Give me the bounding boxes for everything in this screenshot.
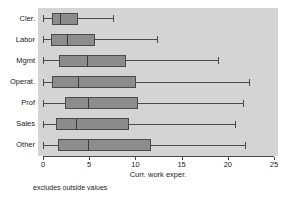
box-rect	[65, 98, 137, 109]
box-rect	[51, 34, 94, 45]
box-rect	[57, 119, 128, 130]
y-tick-label: Other	[0, 141, 35, 149]
y-tick-label: Operat.	[0, 78, 35, 86]
x-tick-label: 25	[270, 160, 278, 169]
box-rect	[60, 55, 126, 66]
y-tick-label: Sales	[0, 120, 35, 128]
boxplot-figure: Cler.LaborMgmtOperat.ProfSalesOther 0510…	[0, 0, 286, 199]
box-plot-group	[43, 98, 244, 109]
box-plot-group	[43, 77, 250, 88]
box-rect	[59, 140, 150, 151]
x-tick-label: 5	[87, 160, 91, 169]
y-tick-label: Mgmt	[0, 57, 35, 65]
box-plot-group	[43, 140, 245, 151]
x-axis-line	[43, 156, 274, 157]
box-rect	[52, 77, 135, 88]
chart-footnote: excludes outside values	[33, 184, 107, 191]
x-axis-title: Curr. work exper.	[38, 170, 278, 179]
plot-area	[38, 8, 278, 156]
x-tick-label: 15	[177, 160, 185, 169]
y-tick-label: Labor	[0, 36, 35, 44]
y-axis-category-labels: Cler.LaborMgmtOperat.ProfSalesOther	[0, 8, 35, 156]
x-axis: 0510152025	[38, 156, 278, 170]
box-plot-group	[43, 34, 158, 45]
boxplot-canvas	[38, 8, 278, 156]
box-plot-group	[43, 119, 235, 130]
box-plot-group	[43, 13, 113, 24]
x-tick-label: 10	[131, 160, 139, 169]
y-tick-label: Prof	[0, 99, 35, 107]
box-rect	[52, 13, 77, 24]
x-tick-label: 20	[224, 160, 232, 169]
box-plot-group	[43, 55, 219, 66]
y-tick-label: Cler.	[0, 15, 35, 23]
x-tick-label: 0	[41, 160, 45, 169]
